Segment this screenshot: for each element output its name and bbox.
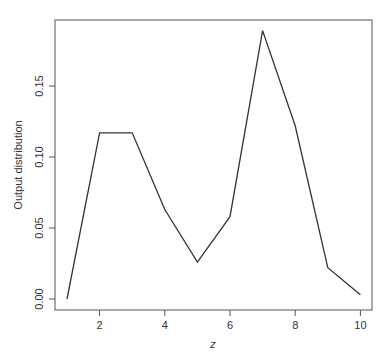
x-tick-label: 6 [227, 319, 233, 331]
data-line [67, 31, 360, 299]
y-tick-label: 0.00 [33, 288, 45, 309]
x-axis: 246810 [97, 310, 367, 331]
y-axis: 0.000.050.100.15 [33, 75, 55, 309]
plot-box [55, 20, 372, 310]
x-tick-label: 4 [162, 319, 168, 331]
y-tick-label: 0.05 [33, 217, 45, 238]
y-tick-label: 0.15 [33, 75, 45, 96]
x-tick-label: 2 [97, 319, 103, 331]
y-tick-label: 0.10 [33, 146, 45, 167]
x-tick-label: 10 [354, 319, 366, 331]
y-axis-label: Output distribution [12, 120, 24, 209]
x-axis-label: z [209, 338, 216, 350]
x-tick-label: 8 [292, 319, 298, 331]
chart: 246810 0.000.050.100.15 z Output distrib… [0, 0, 390, 359]
